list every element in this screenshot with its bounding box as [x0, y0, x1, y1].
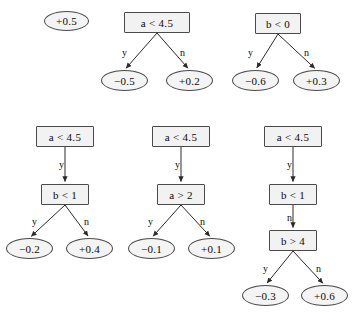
edge-label: y — [59, 160, 64, 170]
leaf-node: +0.6 — [301, 285, 348, 306]
leaf-node: −0.1 — [128, 238, 175, 259]
edge-label: y — [287, 160, 292, 170]
leaf-node: +0.3 — [293, 70, 340, 91]
leaf-node: +0.4 — [66, 238, 113, 259]
tree-edge — [153, 205, 181, 236]
decision-tree-diagram: +0.5a < 4.5−0.5+0.2b < 0−0.6+0.3a < 4.5b… — [0, 0, 358, 326]
tree-edge — [257, 34, 278, 68]
edge-label: y — [263, 264, 268, 274]
edge-label: y — [32, 217, 37, 227]
split-node: b > 4 — [269, 230, 317, 251]
edge-label: y — [122, 48, 127, 58]
edge-label: n — [287, 213, 292, 223]
leaf-node: −0.6 — [232, 70, 279, 91]
leaf-node: +0.5 — [44, 11, 89, 31]
split-node: b < 1 — [269, 184, 317, 205]
leaf-node: −0.3 — [242, 285, 289, 306]
tree-edge — [278, 34, 315, 68]
leaf-node: −0.5 — [101, 70, 148, 91]
edge-label: n — [180, 48, 185, 58]
edge-label: n — [304, 48, 309, 58]
split-node: a < 4.5 — [264, 126, 322, 147]
edge-label: y — [148, 217, 153, 227]
leaf-node: +0.2 — [166, 70, 213, 91]
tree-edge — [126, 33, 157, 68]
split-node: a < 4.5 — [36, 126, 94, 147]
split-node: a < 4.5 — [152, 126, 210, 147]
split-node: a > 2 — [157, 184, 205, 205]
split-node: a < 4.5 — [124, 12, 190, 33]
edge-label: y — [175, 160, 180, 170]
tree-edge — [181, 205, 210, 236]
edge-label: n — [200, 217, 205, 227]
split-node: b < 1 — [41, 184, 89, 205]
leaf-node: +0.1 — [188, 238, 235, 259]
edge-label: y — [248, 48, 253, 58]
edge-label: n — [84, 217, 89, 227]
leaf-node: −0.2 — [6, 238, 53, 259]
tree-edge — [267, 251, 293, 283]
edge-label: n — [316, 264, 321, 274]
split-node: b < 0 — [255, 13, 301, 34]
